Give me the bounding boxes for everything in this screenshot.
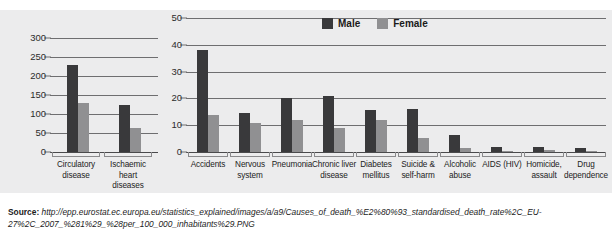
label-line: heart xyxy=(96,171,160,182)
bar-group-ischaemic xyxy=(108,105,152,153)
bar-female xyxy=(418,138,429,152)
bar-group-suicide-self-harm xyxy=(398,109,438,152)
ytick-label: 40 xyxy=(171,40,182,50)
legend-swatch-male-icon xyxy=(322,18,333,29)
category-label-drug-dependence: Drug dependence xyxy=(558,160,612,181)
label-line: system xyxy=(224,171,276,182)
source-label: Source: xyxy=(8,207,39,217)
legend-label-male: Male xyxy=(338,18,360,29)
bar-male xyxy=(281,98,292,152)
bar-female xyxy=(250,123,261,153)
legend-label-female: Female xyxy=(393,18,427,29)
bar-group-nervous-system xyxy=(230,113,270,152)
bar-female xyxy=(376,120,387,152)
label-line: abuse xyxy=(434,171,486,182)
bar-group-circulatory xyxy=(56,65,100,152)
bar-male xyxy=(323,96,334,152)
bar-group-chronic-liver-disease xyxy=(314,96,354,152)
label-line: Ischaemic xyxy=(96,160,160,171)
ytick-label: 200 xyxy=(30,71,46,81)
ytick-label: 0 xyxy=(177,147,182,157)
gridline-30: 30 xyxy=(186,72,606,73)
ytick-label: 50 xyxy=(171,13,182,23)
gridline-250: 250 xyxy=(50,57,158,58)
bar-female xyxy=(334,128,345,152)
label-line: dependence xyxy=(558,171,612,182)
category-bracket xyxy=(272,152,312,157)
source-caption: Source: http://epp.eurostat.ec.europa.eu… xyxy=(8,206,604,230)
legend-swatch-female-icon xyxy=(377,18,388,29)
category-bracket xyxy=(440,152,480,157)
bar-female xyxy=(292,120,303,152)
category-label-ischaemic: Ischaemic heart diseases xyxy=(96,160,160,192)
bar-male xyxy=(197,50,208,152)
category-bracket xyxy=(482,152,522,157)
bar-group-alcoholic-abuse xyxy=(440,135,480,152)
bar-group-pneumonia xyxy=(272,98,312,152)
ytick-label: 250 xyxy=(30,52,46,62)
gridline-300: 300 xyxy=(50,38,158,39)
ytick-label: 10 xyxy=(171,120,182,130)
gridline-20: 20 xyxy=(186,98,606,99)
bar-male xyxy=(119,105,130,153)
label-line: diseases xyxy=(96,181,160,192)
category-bracket xyxy=(566,152,606,157)
ytick-label: 50 xyxy=(35,128,46,138)
category-bracket xyxy=(188,152,228,157)
bar-male xyxy=(239,113,250,152)
ytick-label: 100 xyxy=(30,109,46,119)
left-bar-chart: 300 250 200 150 100 50 0 xyxy=(50,38,158,152)
chart-legend: Male Female xyxy=(322,18,428,29)
category-bracket xyxy=(314,152,354,157)
source-url-line-1: http://epp.eurostat.ec.europa.eu/statist… xyxy=(42,207,542,217)
category-bracket xyxy=(524,152,564,157)
category-bracket xyxy=(398,152,438,157)
ytick-label: 20 xyxy=(171,94,182,104)
category-bracket xyxy=(52,152,100,157)
category-bracket xyxy=(230,152,270,157)
bar-male xyxy=(365,110,376,152)
right-bar-chart: 50 40 30 20 10 0 xyxy=(186,18,606,152)
gridline-40: 40 xyxy=(186,45,606,46)
ytick-label: 300 xyxy=(30,33,46,43)
label-line: Drug xyxy=(558,160,612,171)
category-bracket xyxy=(104,152,152,157)
ytick-label: 0 xyxy=(41,147,46,157)
figure-root: 300 250 200 150 100 50 0 xyxy=(0,0,612,248)
category-bracket xyxy=(356,152,396,157)
ytick-label: 150 xyxy=(30,90,46,100)
source-url-line-2: 27%2C_2007_%281%29_%28per_100_000_inhabi… xyxy=(8,218,604,230)
bar-group-diabetes-mellitus xyxy=(356,110,396,152)
bar-male xyxy=(407,109,418,152)
bar-male xyxy=(67,65,78,152)
bar-male xyxy=(449,135,460,152)
bar-female xyxy=(78,103,89,152)
bar-female xyxy=(130,128,141,152)
bar-female xyxy=(208,115,219,153)
bar-group-accidents xyxy=(188,50,228,152)
ytick-label: 30 xyxy=(171,67,182,77)
